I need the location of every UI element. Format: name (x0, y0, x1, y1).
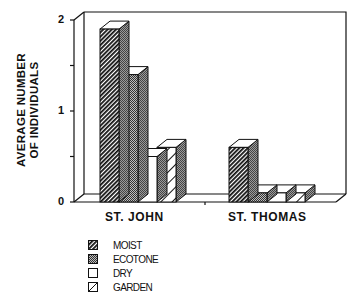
y-axis-top-edge (74, 12, 84, 20)
bar-moist-st-thomas (229, 147, 248, 202)
bar-side-moist-st-john (119, 21, 129, 202)
y-axis-title: AVERAGE NUMBER OF INDIVIDUALS (6, 20, 50, 200)
legend-label: DRY (113, 268, 132, 279)
legend-item-ecotone: ECOTONE (88, 252, 158, 266)
bar-side-moist-st-thomas (248, 139, 258, 202)
y-axis-title-line-2: OF INDIVIDUALS (28, 53, 41, 167)
legend: MOIST ECOTONE DRY GARDEN (88, 238, 158, 294)
dry-swatch-icon (88, 268, 98, 278)
legend-item-dry: DRY (88, 266, 158, 280)
legend-label: MOIST (113, 240, 142, 251)
moist-swatch-icon (88, 240, 98, 250)
bar-side-dry-st-john (157, 149, 167, 203)
legend-label: ECOTONE (113, 254, 158, 265)
legend-label: GARDEN (113, 282, 152, 293)
bar-moist-st-john (100, 29, 119, 202)
plot-area (70, 12, 346, 205)
floor-right-edge (336, 194, 346, 202)
legend-item-garden: GARDEN (88, 280, 158, 294)
garden-swatch-icon (88, 282, 98, 292)
y-axis-bottom-edge (74, 194, 84, 202)
legend-item-moist: MOIST (88, 238, 158, 252)
y-tick-label: 1 (58, 104, 64, 116)
x-category-label-st-thomas: ST. THOMAS (228, 210, 307, 224)
bar-chart (0, 0, 356, 308)
x-category-label-st-john: ST. JOHN (105, 210, 164, 224)
y-tick-label: 0 (58, 195, 64, 207)
bar-side-ecotone-st-john (138, 67, 148, 202)
bar-side-garden-st-john (176, 139, 186, 202)
ecotone-swatch-icon (88, 254, 98, 264)
y-axis-title-line-1: AVERAGE NUMBER (15, 53, 28, 167)
y-tick-label: 2 (58, 13, 64, 25)
